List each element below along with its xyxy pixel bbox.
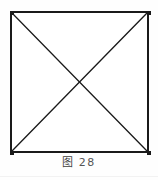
bottom-rule-divider	[0, 176, 158, 177]
figure-caption: 图 28	[0, 156, 158, 170]
corner-bottom-right	[147, 151, 151, 155]
corner-bottom-left	[10, 151, 14, 155]
square-with-diagonals-drawing	[0, 0, 158, 180]
figure-caption-number: 28	[79, 156, 96, 169]
figure-container: 图 28	[0, 0, 158, 180]
corner-top-right	[147, 11, 151, 15]
corner-top-left	[10, 11, 14, 15]
figure-caption-index: 图	[62, 156, 74, 169]
